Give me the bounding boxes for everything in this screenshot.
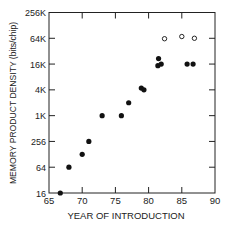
- y-tick-label: 1K: [35, 111, 46, 121]
- filled-circle-marker: [185, 61, 190, 66]
- filled-circle-marker: [86, 139, 91, 144]
- y-axis-ticks: 16642561K4K16K64K256K: [25, 8, 215, 199]
- filled-circle-marker: [126, 100, 131, 105]
- open-circle-marker: [180, 34, 184, 38]
- y-tick-label: 64K: [30, 34, 46, 44]
- open-circle-marker: [162, 37, 166, 41]
- y-tick-label: 64: [36, 163, 46, 173]
- data-points: [58, 34, 197, 195]
- plot-frame: [49, 13, 215, 194]
- x-axis-ticks: 657075808590: [44, 13, 221, 207]
- y-tick-label: 256: [31, 137, 46, 147]
- x-tick-label: 70: [77, 195, 88, 206]
- y-tick-label: 4K: [35, 85, 46, 95]
- x-axis-label: YEAR OF INTRODUCTION: [67, 210, 184, 221]
- filled-circle-marker: [66, 165, 71, 170]
- y-axis-label: MEMORY PRODUCT DENSITY (bits/chip): [8, 22, 18, 184]
- scatter-chart: 657075808590 16642561K4K16K64K256K YEAR …: [0, 0, 229, 227]
- filled-circle-marker: [156, 56, 161, 61]
- x-tick-label: 75: [110, 195, 121, 206]
- filled-circle-marker: [80, 152, 85, 157]
- y-tick-label: 256K: [25, 8, 46, 18]
- x-tick-label: 90: [210, 195, 221, 206]
- filled-circle-marker: [100, 113, 105, 118]
- x-tick-label: 85: [177, 195, 188, 206]
- filled-circle-marker: [190, 61, 195, 66]
- x-tick-label: 80: [143, 195, 154, 206]
- filled-circle-marker: [119, 113, 124, 118]
- open-circle-marker: [192, 36, 196, 40]
- filled-circle-marker: [159, 61, 164, 66]
- y-tick-label: 16K: [30, 60, 46, 70]
- filled-circle-marker: [141, 87, 146, 92]
- y-tick-label: 16: [36, 189, 46, 199]
- filled-circle-marker: [58, 190, 63, 195]
